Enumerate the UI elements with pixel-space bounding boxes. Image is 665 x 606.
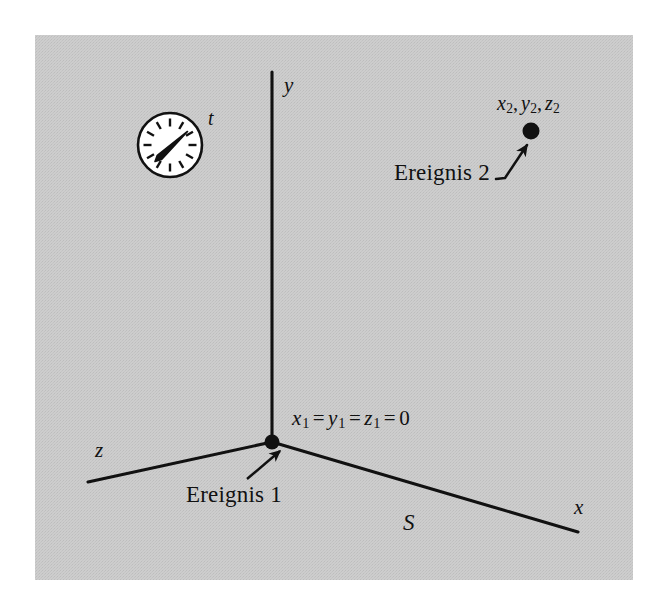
coord-separator-1: ,	[513, 92, 521, 114]
equals-2: =	[346, 406, 364, 430]
event-2-label: Ereignis 2	[394, 161, 490, 184]
figure-plate	[35, 35, 633, 580]
equals-1: =	[310, 406, 328, 430]
event-2-coord-z: z2	[545, 92, 560, 114]
event-1-coord-z: z1	[364, 406, 381, 430]
event-1-dot	[265, 435, 280, 450]
z-axis-label: z	[95, 440, 103, 461]
event-1-label: Ereignis 1	[186, 483, 282, 506]
event-2-dot	[523, 123, 540, 140]
figure-canvas	[0, 0, 665, 606]
x-axis-label: x	[574, 497, 583, 518]
reference-frame-label: S	[403, 511, 415, 534]
event-1-coordinates: x1=y1=z1=0	[292, 408, 410, 430]
clock-time-label: t	[208, 108, 214, 128]
coord-separator-2: ,	[537, 92, 545, 114]
event-1-coord-y: y1	[328, 406, 346, 430]
event-2-coord-y: y2	[521, 92, 537, 114]
event-2-coord-x: x2	[497, 92, 513, 114]
figure-root: y x z S t Ereignis 1 Ereignis 2 x1=y1=z1…	[0, 0, 665, 606]
event-1-coord-value: 0	[399, 406, 410, 430]
event-1-coord-x: x1	[292, 406, 310, 430]
event-2-coordinates: x2,y2,z2	[497, 93, 560, 116]
clock	[138, 113, 202, 177]
y-axis-label: y	[284, 75, 293, 96]
equals-3: =	[381, 406, 399, 430]
